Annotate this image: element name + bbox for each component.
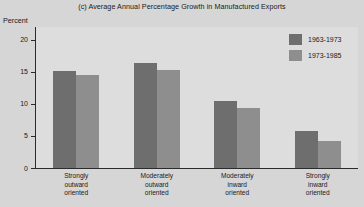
category-label-line: Strongly — [283, 172, 353, 181]
category-label-line: oriented — [122, 189, 192, 198]
category-label-line: Strongly — [41, 172, 111, 181]
category-label-line: outward — [41, 181, 111, 190]
y-tick-label: 15 — [6, 68, 28, 75]
category-label: Moderatelyinwardoriented — [202, 172, 272, 198]
legend-label-series-1: 1963-1973 — [308, 36, 341, 43]
bar-group — [53, 27, 99, 168]
legend-item-series-1: 1963-1973 — [289, 34, 341, 45]
y-tick-label: 0 — [6, 165, 28, 172]
bar-1-group-4 — [295, 131, 318, 168]
bar-2-group-1 — [76, 75, 99, 168]
y-tick-mark — [31, 72, 35, 73]
category-label-line: Moderately — [122, 172, 192, 181]
y-tick-mark — [31, 168, 35, 169]
x-axis-line — [35, 168, 358, 169]
chart-figure: (c) Average Annual Percentage Growth in … — [0, 0, 364, 207]
category-label-line: inward — [202, 181, 272, 190]
chart-title: (c) Average Annual Percentage Growth in … — [0, 2, 364, 11]
bar-2-group-3 — [237, 108, 260, 168]
category-label-line: inward — [283, 181, 353, 190]
y-tick-label: 10 — [6, 100, 28, 107]
y-tick-mark — [31, 136, 35, 137]
bar-2-group-4 — [318, 141, 341, 168]
y-tick-mark — [31, 104, 35, 105]
chart-legend: 1963-1973 1973-1985 — [289, 34, 341, 66]
bar-group — [134, 27, 180, 168]
bar-group — [214, 27, 260, 168]
bar-1-group-2 — [134, 63, 157, 168]
bar-2-group-2 — [157, 70, 180, 168]
legend-item-series-2: 1973-1985 — [289, 50, 341, 61]
category-label-line: oriented — [202, 189, 272, 198]
series-2-swatch-icon — [289, 50, 302, 61]
category-label-line: oriented — [283, 189, 353, 198]
y-tick-label: 20 — [6, 36, 28, 43]
category-label-line: outward — [122, 181, 192, 190]
series-1-swatch-icon — [289, 34, 302, 45]
bar-1-group-3 — [214, 101, 237, 168]
category-label: Moderatelyoutwardoriented — [122, 172, 192, 198]
y-tick-label: 5 — [6, 132, 28, 139]
legend-label-series-2: 1973-1985 — [308, 52, 341, 59]
category-label-line: oriented — [41, 189, 111, 198]
bar-1-group-1 — [53, 71, 76, 168]
category-label-line: Moderately — [202, 172, 272, 181]
y-axis-label: Percent — [3, 16, 28, 25]
category-label: Stronglyinwardoriented — [283, 172, 353, 198]
category-label: Stronglyoutwardoriented — [41, 172, 111, 198]
y-tick-mark — [31, 40, 35, 41]
